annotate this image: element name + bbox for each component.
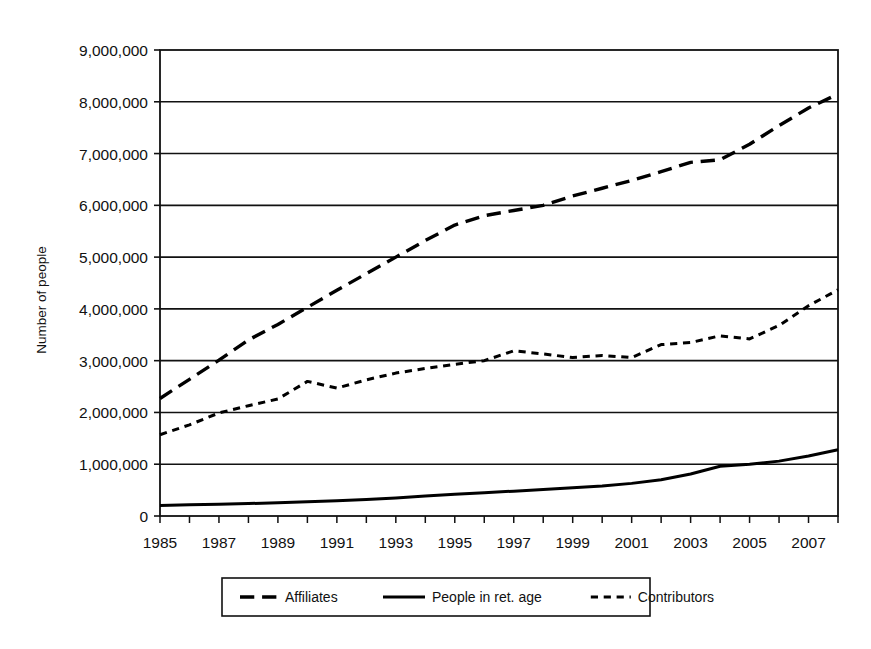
y-tick-label: 5,000,000: [79, 249, 148, 266]
x-tick-label: 2001: [614, 534, 648, 551]
x-tick-label: 1991: [320, 534, 354, 551]
x-tick-label: 1989: [261, 534, 295, 551]
line-chart: 9,000,0008,000,0007,000,0006,000,0005,00…: [0, 0, 871, 649]
y-tick-label: 4,000,000: [79, 301, 148, 318]
y-tick-label: 1,000,000: [79, 456, 148, 473]
x-tick-label: 1985: [143, 534, 177, 551]
x-tick-label: 1993: [379, 534, 413, 551]
y-tick-label: 2,000,000: [79, 404, 148, 421]
y-tick-label: 6,000,000: [79, 197, 148, 214]
y-tick-label: 9,000,000: [79, 42, 148, 59]
legend-label: Affiliates: [285, 589, 338, 605]
chart-figure: 9,000,0008,000,0007,000,0006,000,0005,00…: [0, 0, 871, 649]
chart-legend: AffiliatesPeople in ret. ageContributors: [222, 578, 714, 616]
x-tick-label: 1987: [202, 534, 236, 551]
x-tick-label: 2007: [791, 534, 825, 551]
y-axis-title: Number of people: [34, 246, 49, 353]
x-tick-label: 2005: [732, 534, 766, 551]
x-tick-label: 1999: [555, 534, 589, 551]
x-tick-label: 1995: [438, 534, 472, 551]
y-tick-label: 0: [139, 508, 148, 525]
legend-label: People in ret. age: [432, 589, 542, 605]
y-tick-label: 7,000,000: [79, 146, 148, 163]
x-tick-label: 2003: [673, 534, 707, 551]
x-tick-label: 1997: [496, 534, 530, 551]
y-tick-label: 3,000,000: [79, 353, 148, 370]
y-axis-title-group: Number of people: [34, 246, 49, 353]
legend-label: Contributors: [638, 589, 714, 605]
y-tick-label: 8,000,000: [79, 94, 148, 111]
